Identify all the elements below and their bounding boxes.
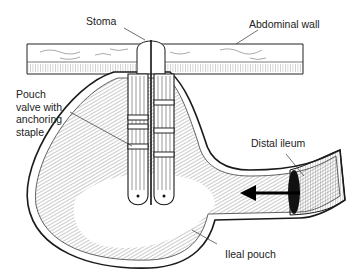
ileal-pouch-shape (27, 72, 345, 268)
label-distal-ileum: Distal ileum (251, 137, 305, 150)
label-ileal-pouch: Ileal pouch (225, 248, 276, 261)
diagram-canvas: Stoma Abdominal wall Pouch valve with an… (0, 0, 354, 280)
label-abdominal-wall: Abdominal wall (249, 18, 320, 31)
label-pouch-valve: Pouch valve with anchoring staple (16, 88, 62, 138)
label-stoma: Stoma (86, 15, 116, 28)
